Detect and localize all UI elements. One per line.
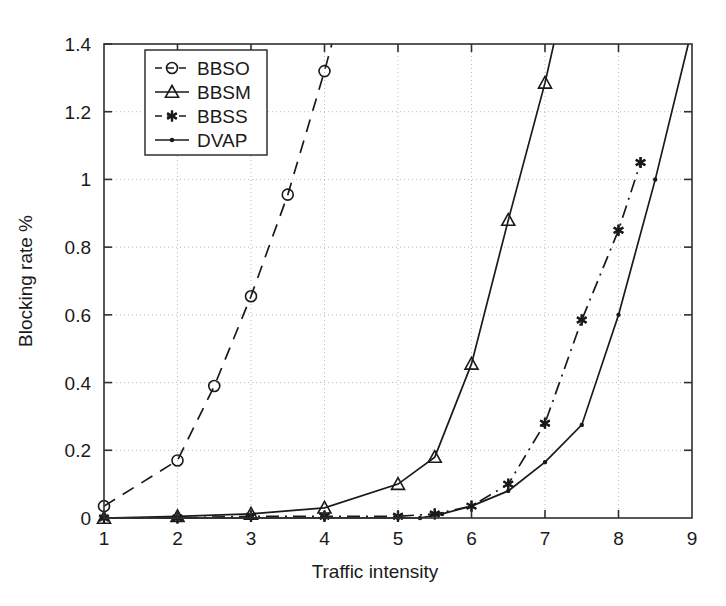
legend-label-dvap: DVAP (197, 130, 247, 151)
y-tick-label: 0.6 (65, 305, 91, 326)
legend-label-bbso: BBSO (197, 58, 250, 79)
x-tick-label: 9 (687, 528, 698, 549)
x-tick-label: 5 (393, 528, 404, 549)
marker-bbss (540, 418, 550, 429)
legend-label-bbsm: BBSM (197, 82, 251, 103)
y-tick-label: 1.2 (65, 102, 91, 123)
x-tick-label: 8 (613, 528, 624, 549)
x-tick-label: 4 (319, 528, 330, 549)
chart-legend[interactable]: BBSOBBSMBBSSDVAP (145, 50, 267, 155)
legend-marker-dvap (170, 138, 173, 141)
marker-dvap (654, 178, 657, 181)
y-tick-labels: 00.20.40.60.811.21.4 (65, 34, 92, 529)
y-tick-label: 1.4 (65, 34, 92, 55)
y-tick-label: 0.4 (65, 373, 92, 394)
x-axis-title: Traffic intensity (312, 561, 439, 582)
y-axis-title: Blocking rate % (15, 215, 36, 347)
marker-bbso (319, 66, 330, 77)
chart-figure: 123456789 00.20.40.60.811.21.4 Traffic i… (0, 0, 726, 606)
marker-bbss (614, 225, 624, 236)
marker-dvap (507, 489, 510, 492)
series-line-bbss (104, 163, 641, 519)
series-bbss (99, 157, 645, 524)
x-tick-label: 7 (540, 528, 551, 549)
marker-dvap (617, 313, 620, 316)
y-tick-label: 0.2 (65, 440, 91, 461)
marker-bbss (636, 157, 646, 168)
marker-dvap (441, 512, 444, 515)
marker-dvap (580, 423, 583, 426)
x-tick-labels: 123456789 (99, 528, 698, 549)
x-tick-label: 6 (466, 528, 477, 549)
x-tick-label: 1 (99, 528, 110, 549)
marker-bbss (577, 314, 587, 325)
marker-dvap (543, 461, 546, 464)
legend-label-bbss: BBSS (197, 106, 248, 127)
y-tick-label: 0.8 (65, 237, 91, 258)
marker-dvap (470, 505, 473, 508)
x-tick-label: 3 (246, 528, 257, 549)
marker-bbso (209, 380, 220, 391)
line-chart-svg: 123456789 00.20.40.60.811.21.4 Traffic i… (0, 0, 726, 606)
y-tick-label: 0 (80, 508, 91, 529)
x-tick-label: 2 (172, 528, 183, 549)
y-tick-label: 1 (80, 169, 91, 190)
